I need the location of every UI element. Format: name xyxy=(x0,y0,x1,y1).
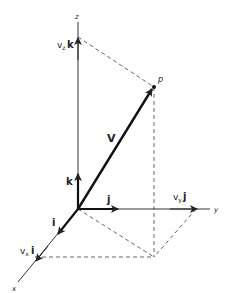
dashed-z-to-p xyxy=(78,37,154,87)
svg-text:j: j xyxy=(182,191,186,202)
svg-text:vy: vy xyxy=(173,192,182,204)
dashed-vy-to-floor xyxy=(154,209,196,257)
z-axis-label: z xyxy=(74,13,79,21)
j-label: j xyxy=(106,194,110,205)
vz-k-label: vz k xyxy=(57,39,74,51)
svg-text:k: k xyxy=(67,39,74,50)
point-p xyxy=(152,85,156,89)
svg-text:vx: vx xyxy=(20,246,29,257)
component-vectors xyxy=(36,38,197,261)
k-label: k xyxy=(66,176,73,187)
vy-j-label: vy j xyxy=(173,191,186,204)
vector-v-label: V xyxy=(107,132,116,145)
point-p-label: p xyxy=(157,75,163,84)
svg-text:vz: vz xyxy=(57,40,65,51)
vx-i-label: vx i xyxy=(20,245,34,257)
svg-text:i: i xyxy=(31,245,34,256)
vx-i-vector xyxy=(36,246,48,261)
y-axis-label: y xyxy=(213,206,219,214)
vector-v xyxy=(78,89,152,209)
dashed-origin-to-floor xyxy=(78,209,154,257)
i-unit-vector xyxy=(58,209,78,234)
x-axis-label: x xyxy=(11,285,17,293)
i-label: i xyxy=(52,217,55,228)
vector-diagram: z y x p V k j i vz k vy j vx i xyxy=(0,0,233,293)
